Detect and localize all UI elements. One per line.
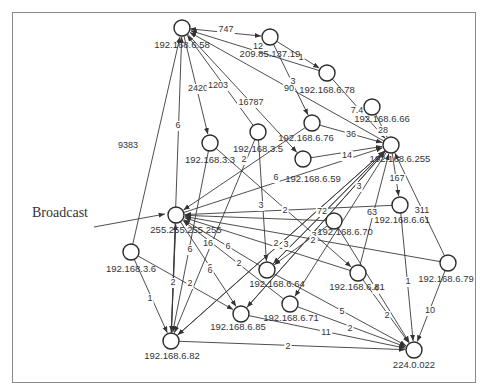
edge-weight-label: 72 bbox=[317, 206, 327, 216]
node-label: 192.168.6.85 bbox=[210, 321, 265, 332]
node-192-168-6-71[interactable]: 192.168.6.71 bbox=[263, 296, 318, 323]
node-circle[interactable] bbox=[406, 342, 422, 358]
node-circle[interactable] bbox=[295, 151, 311, 167]
node-circle[interactable] bbox=[168, 207, 184, 223]
node-circle[interactable] bbox=[259, 262, 275, 278]
node-label: 192.168.6.78 bbox=[299, 84, 354, 95]
edge-weight-label: 14 bbox=[342, 150, 352, 160]
node-label: 192.168.3.6 bbox=[106, 263, 156, 274]
edge-weight-label: 6 bbox=[207, 265, 212, 275]
node-192-168-6-255[interactable]: 192.168.6.255 bbox=[370, 137, 431, 164]
node-192-168-6-58[interactable]: 192.168.6.58 bbox=[154, 20, 209, 50]
node-label: 224.0.022 bbox=[393, 359, 435, 370]
node-224-0-022[interactable]: 224.0.022 bbox=[393, 342, 435, 370]
node-circle[interactable] bbox=[282, 296, 298, 312]
edge-weight-label: 2 bbox=[285, 341, 290, 351]
edge-weight-label: 2 bbox=[273, 238, 278, 248]
node-label: 192.168.6.64 bbox=[249, 278, 304, 289]
node-circle[interactable] bbox=[262, 29, 278, 45]
node-192-168-6-85[interactable]: 192.168.6.85 bbox=[210, 306, 265, 332]
node-192-168-6-76[interactable]: 192.168.6.76 bbox=[278, 115, 333, 143]
node-label: 192.168.3.3 bbox=[185, 154, 235, 165]
node-192-168-3-6[interactable]: 192.168.3.6 bbox=[106, 244, 156, 274]
node-label: 192.168.6.81 bbox=[329, 281, 384, 292]
edge-weight-label: 6 bbox=[175, 120, 180, 130]
node-circle[interactable] bbox=[233, 306, 249, 322]
node-circle[interactable] bbox=[392, 197, 408, 213]
edge-weight-label: 6 bbox=[187, 244, 192, 254]
edge-weight-label: 2 bbox=[187, 278, 192, 288]
edge-weight-label: 6 bbox=[273, 172, 278, 182]
edge-192-168-6-82-to-224-0-022 bbox=[179, 341, 405, 349]
node-label: 192.168.6.71 bbox=[263, 312, 318, 323]
edge-weight-label: 11 bbox=[321, 327, 330, 337]
edge-labels-layer: 7471213909383624201203167877.42836141673… bbox=[117, 24, 437, 352]
node-192-168-6-78[interactable]: 192.168.6.78 bbox=[299, 65, 354, 95]
edge-weight-label: 2420 bbox=[188, 83, 208, 93]
edge-weight-label: 28 bbox=[378, 125, 388, 135]
node-label: 192.168.6.66 bbox=[354, 113, 409, 124]
edge-weight-label: 5 bbox=[339, 306, 344, 316]
node-circle[interactable] bbox=[202, 135, 218, 151]
edge-weight-label: 1 bbox=[147, 293, 152, 303]
node-label: 192.168.6.58 bbox=[154, 39, 209, 50]
edge-weight-label: 1 bbox=[405, 276, 410, 286]
edge-weight-label: 10 bbox=[425, 305, 435, 315]
edge-weight-label: 2 bbox=[310, 235, 315, 245]
node-192-168-6-82[interactable]: 192.168.6.82 bbox=[144, 333, 199, 361]
edge-weight-label: 2 bbox=[241, 154, 246, 164]
node-circle[interactable] bbox=[163, 333, 179, 349]
nodes-layer: 192.168.6.58209.85.137.19192.168.6.78192… bbox=[106, 20, 474, 370]
node-circle[interactable] bbox=[350, 265, 366, 281]
edge-weight-label: 90 bbox=[284, 83, 294, 93]
edge-weight-label: 3 bbox=[283, 239, 288, 249]
node-circle[interactable] bbox=[123, 244, 139, 260]
edge-weight-label: 2 bbox=[384, 310, 389, 320]
node-label: 192.168.6.255 bbox=[370, 153, 431, 164]
node-label: 192.168.3.5 bbox=[233, 143, 283, 154]
node-192-168-3-5[interactable]: 192.168.3.5 bbox=[233, 124, 283, 154]
network-graph: 7471213909383624201203167877.42836141673… bbox=[0, 0, 487, 392]
edge-weight-label: 1203 bbox=[208, 80, 228, 90]
node-192-168-6-59[interactable]: 192.168.6.59 bbox=[285, 151, 340, 184]
node-192-168-6-81[interactable]: 192.168.6.81 bbox=[329, 265, 384, 292]
edge-weight-label: 2 bbox=[347, 323, 352, 333]
edge-weight-label: 16 bbox=[203, 238, 213, 248]
node-label: 192.168.6.70 bbox=[317, 226, 372, 237]
node-circle[interactable] bbox=[440, 255, 456, 271]
edge-weight-label: 36 bbox=[346, 129, 356, 139]
node-circle[interactable] bbox=[250, 124, 266, 140]
edge-weight-label: 9383 bbox=[118, 140, 138, 150]
node-circle[interactable] bbox=[319, 65, 335, 81]
edge-weight-label: 3 bbox=[356, 181, 361, 191]
node-circle[interactable] bbox=[383, 137, 399, 153]
node-label: 255.255.255.255 bbox=[150, 224, 221, 235]
edge-weight-label: 2 bbox=[170, 277, 175, 287]
edge-weight-label: 6 bbox=[225, 241, 230, 251]
edge-weight-label: 2 bbox=[236, 258, 241, 268]
node-209-85-137-19[interactable]: 209.85.137.19 bbox=[240, 29, 301, 59]
edge-weight-label: 2 bbox=[282, 205, 287, 215]
node-circle[interactable] bbox=[174, 20, 190, 36]
node-label: 209.85.137.19 bbox=[240, 48, 301, 59]
edge-weight-label: 16787 bbox=[238, 97, 263, 107]
edge-weight-label: 3 bbox=[258, 200, 263, 210]
node-192-168-3-3[interactable]: 192.168.3.3 bbox=[185, 135, 235, 165]
node-label: 192.168.6.79 bbox=[418, 273, 473, 284]
node-label: 192.168.6.82 bbox=[144, 350, 199, 361]
node-label: 192.168.6.59 bbox=[285, 173, 340, 184]
node-circle[interactable] bbox=[304, 115, 320, 131]
edge-weight-label: 167 bbox=[389, 173, 404, 183]
edge-weight-label: 747 bbox=[218, 24, 233, 34]
node-label: 192.168.6.76 bbox=[278, 132, 333, 143]
node-label: 192.168.6.61 bbox=[374, 214, 429, 225]
